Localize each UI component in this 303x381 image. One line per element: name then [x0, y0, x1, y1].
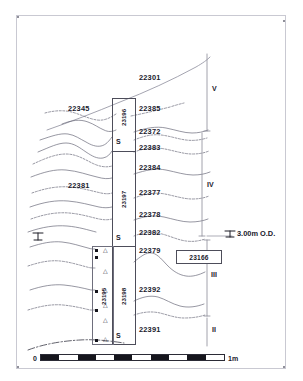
scale-segment [206, 355, 224, 360]
interface-left-1 [40, 134, 112, 146]
sample-triangle-marker: △ [103, 247, 108, 253]
scale-segment [151, 355, 169, 360]
s-marker-bottom: S [116, 332, 121, 339]
phase-label-III: III [211, 271, 217, 278]
sample-triangle-marker: △ [103, 287, 108, 293]
section-drawing-sheet: 23196 23197 23198 23195 △ △ △ △ △ △ S S … [0, 0, 303, 381]
interface-22391 [134, 312, 205, 318]
context-22379: 22379 [139, 247, 161, 254]
sample-triangle-marker: △ [103, 336, 108, 342]
sample-column-label-23196: 23196 [121, 109, 127, 126]
interface-left-12 [28, 305, 95, 310]
context-22384: 22384 [139, 164, 161, 171]
scale-segment [114, 355, 132, 360]
interface-left-3 [33, 154, 112, 167]
sample-triangle-marker: △ [103, 317, 108, 323]
datum-3-00m-od-label: 3.00m O.D. [237, 230, 275, 237]
context-22391: 22391 [139, 326, 161, 333]
interface-left-6 [30, 201, 112, 208]
scale-segment [169, 355, 187, 360]
scale-segment [41, 355, 59, 360]
interface-left-10 [28, 261, 95, 268]
s-marker-middle: S [116, 234, 121, 241]
context-22377: 22377 [139, 189, 161, 196]
sample-tin-marker [95, 339, 98, 342]
phase-label-V: V [212, 85, 217, 92]
interface-22392 [134, 296, 204, 307]
context-22385: 22385 [139, 105, 161, 112]
phase-label-II: II [212, 326, 216, 333]
sample-triangle-marker: △ [103, 302, 108, 308]
scale-segment [187, 355, 205, 360]
interface-left-4 [31, 170, 112, 179]
scale-zero-label: 0 [33, 355, 37, 362]
s-marker-top: S [116, 138, 121, 145]
context-22392: 22392 [139, 286, 161, 293]
sample-column-label-23197: 23197 [121, 191, 127, 208]
sample-tin-marker [95, 249, 98, 252]
left-datum-mark [33, 233, 43, 240]
phase-label-IV: IV [207, 181, 214, 188]
context-22372: 22372 [139, 128, 161, 135]
interface-left-2 [38, 143, 112, 158]
interface-left-7 [31, 213, 112, 220]
context-22383: 22383 [139, 144, 161, 151]
scale-segment [132, 355, 150, 360]
sample-tin-marker [95, 290, 98, 293]
sample-triangle-marker: △ [103, 268, 108, 274]
interface-left-9 [30, 242, 95, 249]
context-22345: 22345 [68, 105, 90, 112]
context-22382: 22382 [139, 229, 161, 236]
context-22381: 22381 [68, 182, 90, 189]
interface-left-8 [28, 226, 96, 232]
sample-tin-marker [95, 309, 98, 312]
scale-segment [59, 355, 77, 360]
context-22301: 22301 [139, 74, 161, 81]
scale-segment [96, 355, 114, 360]
scale-segment [78, 355, 96, 360]
sample-column-label-23198: 23198 [121, 288, 127, 305]
sample-tin-marker [95, 256, 98, 259]
interface-left-11 [30, 285, 95, 290]
scale-bar [40, 354, 225, 361]
context-22378: 22378 [139, 211, 161, 218]
find-label-23166[interactable]: 23166 [176, 250, 222, 264]
scale-end-label: 1m [228, 355, 238, 362]
